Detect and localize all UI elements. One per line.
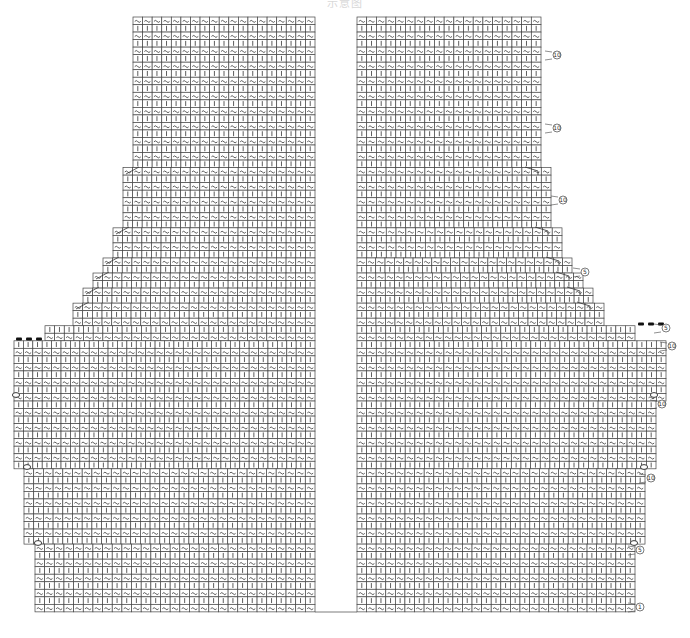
- row-number-label: 1: [638, 603, 642, 610]
- row-number-label: 10: [559, 196, 567, 203]
- bind-off-icon: [648, 323, 654, 326]
- arrow-right-icon: [545, 51, 552, 52]
- bind-off-icon: [36, 338, 42, 341]
- arrow-left-icon: [545, 132, 552, 133]
- arrow-left-icon: [551, 204, 558, 205]
- left-front-panel-grid: [14, 17, 315, 612]
- row-number-label: 5: [664, 324, 668, 331]
- right-front-panel-grid: [357, 17, 666, 612]
- increase-loop-icon: [34, 541, 41, 546]
- arrow-right-icon: [551, 196, 558, 197]
- row-number-label: 5: [638, 546, 642, 553]
- increase-loop-icon: [23, 465, 30, 470]
- row-number-label: 10: [647, 474, 655, 481]
- row-number-label: 10: [553, 51, 561, 58]
- arrow-left-icon: [654, 332, 661, 333]
- row-marker: 10: [551, 196, 567, 205]
- knitting-chart: 1010105510101051: [0, 0, 690, 638]
- increase-loop-icon: [630, 541, 637, 546]
- row-number-label: 5: [583, 268, 587, 275]
- row-marker: 10: [545, 51, 561, 60]
- bind-off-icon: [26, 338, 32, 341]
- row-marker: 10: [545, 124, 561, 133]
- row-number-label: 10: [553, 124, 561, 131]
- arrow-right-icon: [545, 124, 552, 125]
- arrow-right-icon: [573, 268, 580, 269]
- bind-off-icon: [16, 338, 22, 341]
- row-number-label: 10: [658, 400, 666, 407]
- arrow-left-icon: [545, 59, 552, 60]
- row-number-label: 10: [668, 342, 676, 349]
- increase-loop-icon: [640, 465, 647, 470]
- bind-off-icon: [638, 323, 644, 326]
- increase-loop-icon: [650, 393, 657, 398]
- increase-loop-icon: [12, 393, 19, 398]
